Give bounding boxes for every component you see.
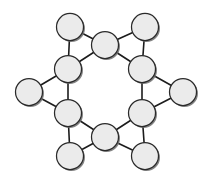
graph-node-inner-upper-left[interactable]: [55, 56, 84, 85]
graph-node-outer-top-left[interactable]: [57, 14, 86, 43]
graph-node-circle[interactable]: [129, 100, 156, 127]
graph-node-outer-right[interactable]: [170, 79, 199, 108]
graph-node-circle[interactable]: [55, 100, 82, 127]
graph-figure: [0, 0, 209, 183]
graph-node-outer-top-right[interactable]: [132, 14, 161, 43]
graph-node-circle[interactable]: [57, 14, 84, 41]
graph-node-circle[interactable]: [132, 143, 159, 170]
graph-node-inner-lower-right[interactable]: [129, 100, 158, 129]
graph-node-outer-bottom-right[interactable]: [132, 143, 161, 172]
graph-node-circle[interactable]: [55, 56, 82, 83]
graph-node-circle[interactable]: [129, 56, 156, 83]
graph-node-outer-left[interactable]: [16, 79, 45, 108]
graph-node-circle[interactable]: [132, 14, 159, 41]
graph-node-inner-top[interactable]: [92, 32, 121, 61]
graph-node-circle[interactable]: [92, 124, 119, 151]
graph-node-circle[interactable]: [16, 79, 43, 106]
graph-node-inner-lower-left[interactable]: [55, 100, 84, 129]
node-layer: [16, 14, 199, 172]
graph-node-inner-upper-right[interactable]: [129, 56, 158, 85]
graph-node-circle[interactable]: [92, 32, 119, 59]
graph-node-circle[interactable]: [57, 143, 84, 170]
graph-node-inner-bottom[interactable]: [92, 124, 121, 153]
graph-node-outer-bottom-left[interactable]: [57, 143, 86, 172]
graph-node-circle[interactable]: [170, 79, 197, 106]
graph-canvas: [0, 0, 209, 183]
